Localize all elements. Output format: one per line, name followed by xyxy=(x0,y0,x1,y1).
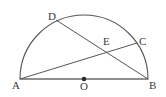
vertex-label-b: B xyxy=(149,80,156,91)
vertex-label-e: E xyxy=(103,36,110,47)
geometry-figure: A B O C D E xyxy=(0,0,166,97)
vertex-label-a: A xyxy=(12,80,20,91)
chord-segment-db xyxy=(56,20,148,79)
vertex-label-d: D xyxy=(48,11,56,22)
vertex-label-c: C xyxy=(139,36,146,47)
vertex-label-o: O xyxy=(80,81,88,92)
semicircle-arc xyxy=(20,15,148,79)
